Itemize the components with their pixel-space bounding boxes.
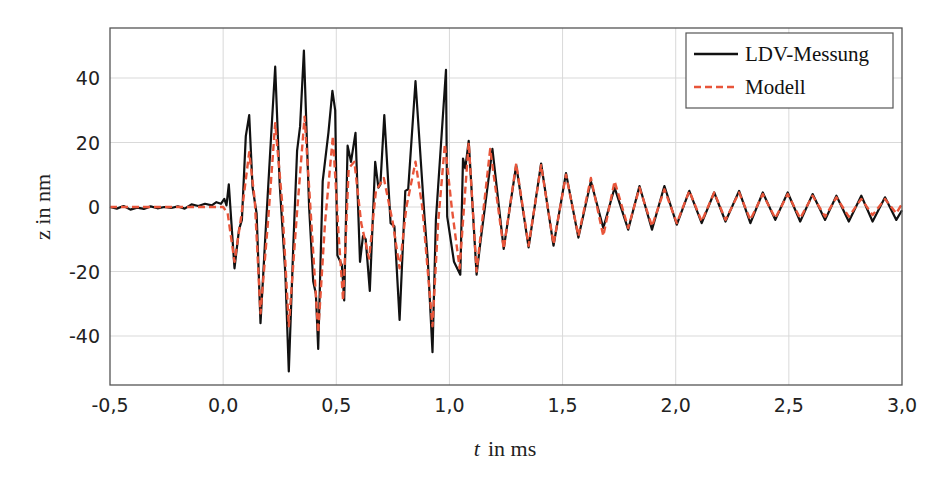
x-tick-label: 1,0 bbox=[434, 394, 464, 416]
legend-label-modell: Modell bbox=[745, 75, 806, 99]
x-axis-label-variable: t bbox=[474, 436, 481, 461]
x-axis-label-unit: in ms bbox=[488, 436, 536, 461]
chart-svg: -0,50,00,51,01,52,02,53,0 40200-20-40 ti… bbox=[0, 0, 951, 478]
y-tick-label: -20 bbox=[69, 261, 100, 283]
x-tick-label: 1,5 bbox=[547, 394, 577, 416]
y-tick-label: 40 bbox=[76, 67, 100, 89]
x-axis-label: tin ms bbox=[474, 436, 536, 461]
x-tick-label: -0,5 bbox=[91, 394, 128, 416]
x-tick-label: 0,0 bbox=[208, 394, 238, 416]
legend: LDV-Messung Modell bbox=[686, 33, 893, 108]
series-modell-line bbox=[110, 117, 902, 333]
y-tick-label: -40 bbox=[69, 325, 100, 347]
y-tick-label: 20 bbox=[76, 132, 100, 154]
legend-label-ldv-messung: LDV-Messung bbox=[745, 42, 870, 66]
x-tick-label: 0,5 bbox=[321, 394, 351, 416]
y-axis-ticks: 40200-20-40 bbox=[69, 67, 100, 347]
y-tick-label: 0 bbox=[88, 196, 100, 218]
x-tick-label: 2,0 bbox=[661, 394, 691, 416]
x-axis-ticks: -0,50,00,51,01,52,02,53,0 bbox=[91, 394, 917, 416]
x-tick-label: 3,0 bbox=[887, 394, 917, 416]
y-axis-label: z in nm bbox=[30, 174, 55, 240]
chart: -0,50,00,51,01,52,02,53,0 40200-20-40 ti… bbox=[0, 0, 951, 478]
x-tick-label: 2,5 bbox=[774, 394, 804, 416]
